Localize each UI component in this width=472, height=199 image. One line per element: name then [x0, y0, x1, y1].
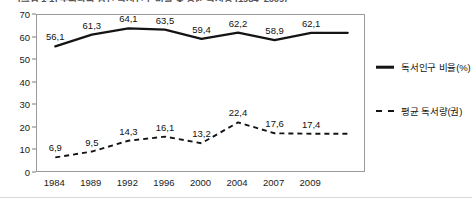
legend-item-reading-population: 독서인구 비율(%) [376, 60, 472, 74]
x-tick-label: 2009 [300, 177, 321, 188]
y-tick-label: 30 [19, 99, 30, 110]
y-tick-label: 10 [19, 144, 30, 155]
x-tick-label: 1984 [44, 177, 65, 188]
x-tick-label: 1996 [153, 177, 174, 188]
bottom-divider [0, 197, 472, 198]
y-tick-label: 60 [19, 31, 30, 42]
x-tick-label: 2000 [190, 177, 211, 188]
x-tick-label: 1989 [80, 177, 101, 188]
legend-item-average-books: 평균 독서량(권) [376, 104, 472, 118]
legend-label-average-books: 평균 독서량(권) [401, 104, 462, 118]
x-tick-label: 2007 [263, 177, 284, 188]
x-axis: 19841989199219962000200420072009 [36, 174, 365, 194]
dashed-line-swatch-icon [376, 106, 394, 116]
series-average-books-line [55, 122, 347, 157]
chart-figure: [그림 1-1] 우리나라 성인 독서인구 비율 및 평균 독서량 (1984~… [0, 0, 472, 199]
solid-line-swatch-icon [376, 62, 394, 72]
x-tick-label: 1992 [117, 177, 138, 188]
y-tick-label: 70 [19, 9, 30, 20]
plot-area: 56,161,364,163,559,462,258,962,16,99,514… [36, 14, 365, 172]
y-tick-label: 40 [19, 76, 30, 87]
y-tick-label: 50 [19, 54, 30, 65]
y-tick-label: 0 [25, 167, 30, 178]
x-tick-label: 2004 [226, 177, 247, 188]
chart-legend: 독서인구 비율(%) 평균 독서량(권) [376, 60, 472, 148]
y-axis: 010203040506070 [0, 14, 36, 172]
y-tick-label: 20 [19, 121, 30, 132]
plot-svg [37, 15, 366, 173]
legend-label-reading-population: 독서인구 비율(%) [401, 60, 470, 74]
chart-title: [그림 1-1] 우리나라 성인 독서인구 비율 및 평균 독서량 (1984~… [18, 0, 358, 2]
series-reading-population-line [55, 28, 347, 46]
